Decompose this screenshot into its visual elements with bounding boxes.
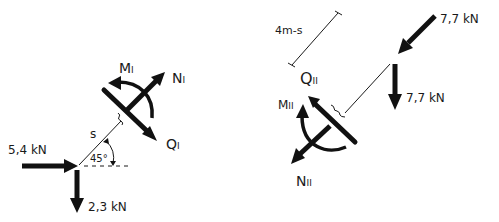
member-line-right [345, 64, 390, 113]
normal-label-NI: NI [172, 70, 185, 86]
diagonal-load-label: 7,7 kN [440, 12, 479, 26]
diagonal-load-arrow [398, 16, 435, 54]
dimension-label: 4m-s [275, 24, 303, 37]
moment-label-MII: MII [278, 98, 294, 112]
member-length-label: s [90, 127, 96, 141]
vertical-load-label-right: 7,7 kN [406, 91, 445, 105]
left-free-body: 5,4 kN 2,3 kN s 45° [8, 60, 185, 214]
vertical-load-arrow [70, 170, 84, 213]
shear-label-QI: QI [166, 136, 180, 152]
moment-label-MI: MI [119, 60, 134, 76]
shear-label-QII: QII [300, 69, 318, 88]
horizontal-load-label: 5,4 kN [8, 143, 47, 157]
angle-label: 45° [90, 153, 108, 164]
horizontal-load-arrow [22, 159, 78, 173]
normal-force-arrow-NII [291, 126, 330, 164]
dimension-line [288, 11, 342, 67]
vertical-load-label: 2,3 kN [88, 200, 127, 214]
vertical-load-arrow-right [388, 64, 402, 110]
shear-force-arrow-QII [308, 96, 355, 142]
normal-label-NII: NII [296, 173, 312, 189]
cut-wavy-line-right [331, 105, 345, 117]
right-free-body: 4m-s 7,7 kN 7,7 kN [275, 11, 479, 189]
free-body-diagram: 5,4 kN 2,3 kN s 45° [0, 0, 499, 222]
